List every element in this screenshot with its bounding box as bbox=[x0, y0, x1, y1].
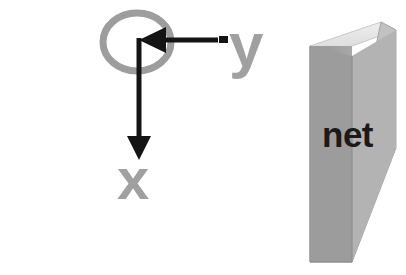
x-axis-arrow bbox=[127, 38, 151, 160]
figure-canvas: net y x bbox=[0, 0, 406, 275]
y-axis-arrowhead bbox=[139, 27, 166, 53]
x-axis-label: x bbox=[117, 146, 149, 211]
y-label-tick bbox=[219, 36, 228, 43]
y-axis-arrow bbox=[139, 27, 218, 53]
diagram-svg: net y x bbox=[0, 0, 406, 275]
net-label: net bbox=[322, 115, 374, 154]
y-axis-label: y bbox=[229, 10, 264, 79]
net-front-face-full bbox=[310, 46, 352, 262]
net-slab: net bbox=[310, 22, 396, 262]
